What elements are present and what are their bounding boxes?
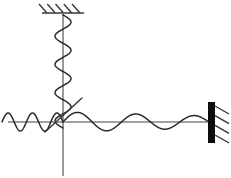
ceiling-hatch-tick (72, 4, 80, 13)
fixed-wall-bar (208, 102, 215, 143)
wall-hatch-tick (215, 125, 229, 133)
ceiling-hatch-marks (39, 4, 80, 13)
diagram-canvas (0, 0, 231, 178)
physics-wave-diagram (0, 0, 231, 178)
wall-hatch-marks (215, 106, 229, 143)
ceiling-hatch-tick (64, 4, 72, 13)
wall-hatch-tick (215, 135, 229, 143)
wall-hatch-tick (215, 116, 229, 124)
wall-hatch-tick (215, 106, 229, 114)
ceiling-support-group (39, 4, 84, 13)
ceiling-hatch-tick (56, 4, 64, 13)
ceiling-hatch-tick (47, 4, 55, 13)
ceiling-hatch-tick (39, 4, 47, 13)
right-wall-group (208, 102, 229, 143)
